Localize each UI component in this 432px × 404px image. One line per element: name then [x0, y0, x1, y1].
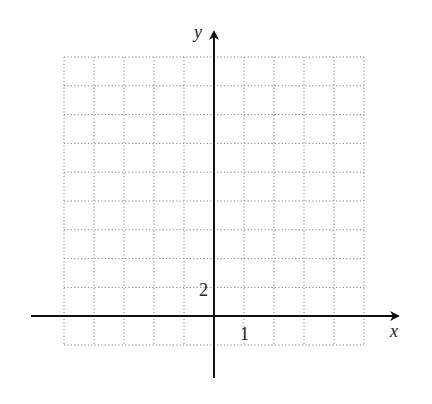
y-axis-label: y: [192, 22, 202, 42]
x-tick-label: 1: [240, 324, 249, 344]
y-tick-label: 2: [199, 280, 208, 300]
coordinate-plane: y x 2 1: [0, 0, 432, 404]
x-axis-label: x: [389, 321, 398, 341]
